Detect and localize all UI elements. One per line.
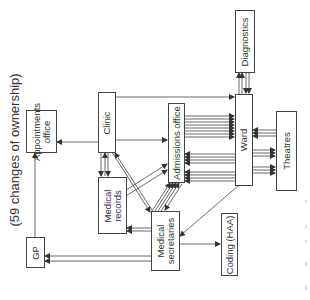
edge-admissions-secretaries xyxy=(165,184,182,210)
edges-ward-theatres xyxy=(252,150,275,173)
node-coding-haa: Coding (HAA) xyxy=(221,213,238,276)
node-clinic: Clinic xyxy=(98,92,116,153)
node-label: GP xyxy=(31,246,41,260)
diagram-title: (59 changes of ownership) xyxy=(7,73,22,226)
node-label: Theatres xyxy=(282,132,292,170)
edge-records-admissions xyxy=(126,164,167,190)
edges-theatres-ward xyxy=(253,130,276,136)
label-line-1: Medical xyxy=(102,189,113,222)
node-label: Admissions office xyxy=(172,106,182,180)
node-medical-secretaries: Medicalsecretaries xyxy=(151,211,180,271)
edges-ward-admissions xyxy=(185,154,235,181)
label-line-2: secretaries xyxy=(165,218,176,264)
node-gp: GP xyxy=(26,237,45,268)
node-label: Clinic xyxy=(102,111,112,134)
node-label: Medicalsecretaries xyxy=(156,218,176,264)
node-label: Ward xyxy=(239,129,249,151)
node-diagnostics: Diagnostics xyxy=(235,10,255,73)
node-appointments-office: Appointmentsoffice xyxy=(26,110,57,153)
node-admissions-office: Admissions office xyxy=(168,103,185,183)
edges-admissions-ward xyxy=(184,116,234,137)
workflow-diagram: (59 changes of ownership) Appointmentsof… xyxy=(0,0,310,300)
edge-records-admissions-2 xyxy=(126,170,167,196)
node-label: Medicalrecords xyxy=(103,189,123,222)
label-line-2: records xyxy=(112,190,123,222)
node-label: Appointmentsoffice xyxy=(32,102,52,160)
node-theatres: Theatres xyxy=(276,111,297,191)
node-label: Coding (HAA) xyxy=(225,215,235,274)
node-ward: Ward xyxy=(235,94,253,186)
node-label: Diagnostics xyxy=(240,17,250,66)
node-medical-records: Medicalrecords xyxy=(98,177,127,234)
label-line-2: office xyxy=(41,120,52,143)
label-line-1: Appointments xyxy=(31,102,42,160)
label-line-1: Medical xyxy=(155,225,166,258)
